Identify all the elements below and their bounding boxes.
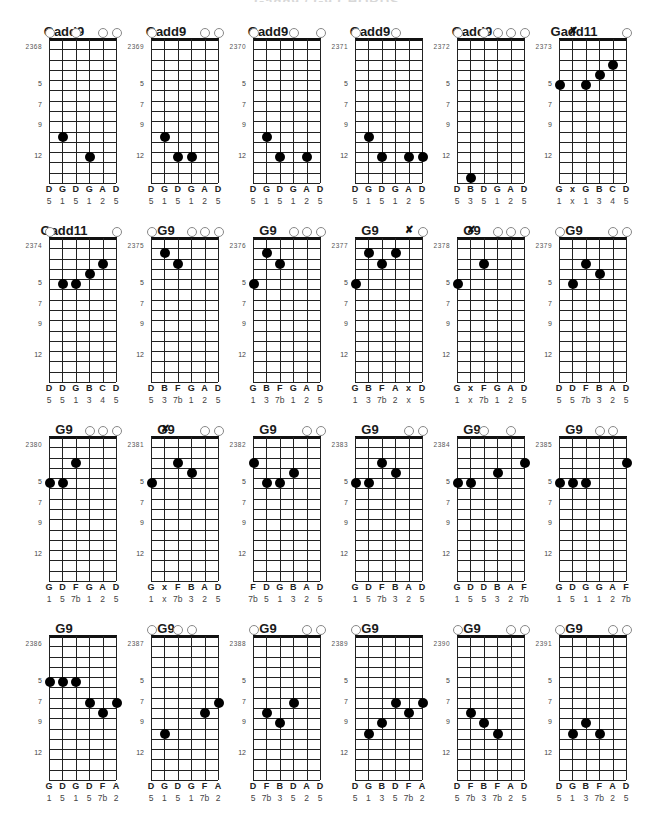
finger-dot-icon xyxy=(453,478,463,488)
open-string-icon xyxy=(45,227,55,237)
fret-number-label: 7 xyxy=(306,698,348,705)
finger-dot-icon xyxy=(493,468,503,478)
finger-dot-icon xyxy=(71,279,81,289)
scale-degree: 7b xyxy=(490,793,504,803)
scale-degrees: 557b325 xyxy=(553,395,633,407)
scale-degree: 2 xyxy=(388,395,402,405)
note-name: G xyxy=(348,383,362,393)
chord-number: 2389 xyxy=(306,640,348,647)
note-names: GDGGAF xyxy=(553,582,633,594)
scale-degree: 1 xyxy=(144,594,158,604)
scale-degree: 5 xyxy=(259,594,273,604)
chord-number: 2383 xyxy=(306,441,348,448)
chord-diagram: G9237857912✘GxFGAD1x7b125 xyxy=(408,223,510,422)
scale-degree: 1 xyxy=(286,395,300,405)
note-name: B xyxy=(286,582,300,592)
note-name: D xyxy=(55,383,69,393)
fret-line xyxy=(559,749,626,750)
fret-number-label: 5 xyxy=(204,80,246,87)
finger-dot-icon xyxy=(377,718,387,728)
chord-number: 2388 xyxy=(204,640,246,647)
string-line xyxy=(293,39,294,183)
fret-number-label: 7 xyxy=(510,499,552,506)
finger-dot-icon xyxy=(160,248,170,258)
fret-number-label: 9 xyxy=(204,718,246,725)
scale-degree: 5 xyxy=(552,793,566,803)
scale-degree: 7b xyxy=(259,793,273,803)
open-string-icon xyxy=(289,28,299,38)
note-name: G xyxy=(157,781,171,791)
scale-degree: 5 xyxy=(246,196,260,206)
finger-dot-icon xyxy=(85,269,95,279)
fret-line xyxy=(559,488,626,489)
open-string-icon xyxy=(249,28,259,38)
string-line xyxy=(368,39,369,183)
note-name: G xyxy=(388,184,402,194)
scale-degree: 5 xyxy=(171,196,185,206)
finger-dot-icon xyxy=(173,259,183,269)
scale-degree: 7b xyxy=(375,594,389,604)
fret-line xyxy=(559,646,626,647)
chord-number: 2374 xyxy=(0,242,42,249)
open-string-icon xyxy=(187,227,197,237)
chord-number: 2378 xyxy=(408,242,450,249)
finger-dot-icon xyxy=(581,259,591,269)
scale-degree: 1 xyxy=(361,793,375,803)
open-string-icon xyxy=(555,227,565,237)
note-name: B xyxy=(259,383,273,393)
note-name: x xyxy=(565,184,579,194)
chord-name: Gadd11 xyxy=(14,223,114,238)
fret-number-label: 9 xyxy=(0,718,42,725)
finger-dot-icon xyxy=(58,677,68,687)
scale-degree: 5 xyxy=(55,594,69,604)
fret-line xyxy=(559,351,626,352)
finger-dot-icon xyxy=(493,729,503,739)
fret-number-label: 5 xyxy=(204,279,246,286)
string-line xyxy=(253,39,254,183)
note-name: G xyxy=(259,184,273,194)
string-line xyxy=(293,238,294,382)
page-title: Gadd9 / G9 CHORDS xyxy=(0,0,654,2)
scale-degree: 5 xyxy=(144,196,158,206)
string-line xyxy=(395,238,396,382)
chord-diagram: Gadd11237457912DDGBCD551345 xyxy=(0,223,102,422)
finger-dot-icon xyxy=(71,458,81,468)
fret-number-label: 12 xyxy=(0,550,42,557)
string-line xyxy=(355,39,356,183)
scale-degree: 1 xyxy=(388,196,402,206)
note-name: G xyxy=(552,184,566,194)
chord-name: Gadd9 xyxy=(218,24,318,39)
scale-degree: 7b xyxy=(477,395,491,405)
chord-diagram: G9238757912DGDGFA51517b2 xyxy=(102,621,204,820)
fret-number-label: 7 xyxy=(102,499,144,506)
fret-number-label: 7 xyxy=(0,101,42,108)
scale-degree: 7b xyxy=(171,395,185,405)
fret-number-label: 5 xyxy=(0,279,42,286)
note-name: D xyxy=(477,582,491,592)
chord-diagram: G9237557912DBFGAD537b125 xyxy=(102,223,204,422)
finger-dot-icon xyxy=(262,708,272,718)
fret-number-label: 9 xyxy=(102,519,144,526)
note-name: D xyxy=(552,383,566,393)
fretboard-grid xyxy=(559,238,626,382)
fret-number-label: 9 xyxy=(510,121,552,128)
string-line xyxy=(559,39,560,183)
scale-degree: 5 xyxy=(477,196,491,206)
scale-degree: 1 xyxy=(69,395,83,405)
fret-number-label: 7 xyxy=(0,698,42,705)
string-line xyxy=(626,39,627,183)
fret-line xyxy=(559,142,626,143)
open-string-icon xyxy=(555,625,565,635)
note-name: D xyxy=(55,582,69,592)
scale-degree: 5 xyxy=(619,793,633,803)
fret-line xyxy=(559,687,626,688)
finger-dot-icon xyxy=(608,60,618,70)
fret-number-label: 9 xyxy=(0,519,42,526)
fret-number-label: 9 xyxy=(408,718,450,725)
scale-degree: 5 xyxy=(348,196,362,206)
note-names: DGBFAD xyxy=(553,781,633,793)
fret-line xyxy=(559,447,626,448)
scale-degree: 2 xyxy=(606,594,620,604)
fret-line xyxy=(559,667,626,668)
scale-degree: 1 xyxy=(552,594,566,604)
